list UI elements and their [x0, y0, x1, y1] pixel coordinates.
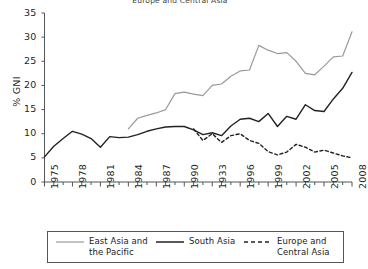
chart-legend: East Asia and the Pacific South Asia Eur…	[47, 231, 344, 263]
series-line-south-asia	[45, 72, 353, 157]
legend-swatch-east-asia-and-the-pacific	[56, 237, 84, 247]
legend-item-east-asia-and-the-pacific: East Asia and the Pacific	[56, 236, 148, 257]
axes	[42, 13, 353, 187]
data-series	[45, 32, 353, 158]
legend-label-east-asia-and-the-pacific: East Asia and the Pacific	[89, 236, 148, 257]
legend-item-europe-and-central-asia: Europe and Central Asia	[244, 236, 330, 257]
legend-swatch-south-asia	[156, 237, 184, 247]
series-line-europe-and-central-asia	[194, 129, 352, 158]
legend-label-south-asia: South Asia	[189, 236, 235, 247]
legend-label-europe-and-central-asia: Europe and Central Asia	[277, 236, 330, 257]
legend-swatch-europe-and-central-asia	[244, 237, 272, 247]
legend-item-south-asia: South Asia	[156, 236, 235, 247]
series-line-east-asia-and-the-pacific	[128, 32, 352, 129]
